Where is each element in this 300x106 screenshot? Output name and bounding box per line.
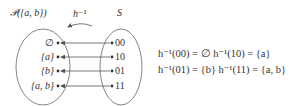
left-element-1: {a}	[41, 51, 54, 62]
inverse-map-label: h⁻¹	[73, 8, 86, 19]
left-dot	[57, 42, 60, 45]
left-dot	[57, 85, 60, 88]
right-element-1: 10	[115, 51, 125, 62]
equation-row-2: h⁻¹(01) = {b} h⁻¹(11) = {a, b}	[158, 63, 286, 75]
left-dot	[57, 70, 60, 73]
right-dot	[111, 42, 114, 45]
equation-row-1: h⁻¹(00) = ∅ h⁻¹(10) = {a}	[158, 47, 271, 59]
right-element-0: 00	[115, 37, 125, 48]
left-element-0: ∅	[45, 37, 54, 48]
right-element-3: 11	[115, 80, 125, 91]
right-set-title: S	[117, 7, 122, 18]
left-set-title: 𝒫({a, b})	[10, 7, 47, 19]
right-dot	[111, 56, 114, 59]
right-dot	[111, 70, 114, 73]
left-element-2: {b}	[41, 65, 54, 76]
left-element-3: {a, b}	[31, 80, 54, 91]
right-dot	[111, 85, 114, 88]
inverse-map-arrow-icon	[68, 24, 92, 27]
right-element-2: 01	[115, 65, 125, 76]
left-dot	[57, 56, 60, 59]
